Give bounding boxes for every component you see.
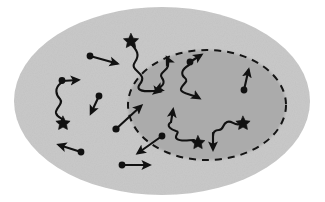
figure-root bbox=[0, 0, 325, 202]
particle-p11-dot bbox=[241, 87, 248, 94]
particle-p01-dot bbox=[87, 53, 94, 60]
particle-p06-dot bbox=[159, 133, 166, 140]
particle-p10-dot bbox=[187, 59, 194, 66]
particle-diagram bbox=[0, 0, 325, 202]
particle-p02-dot bbox=[59, 77, 66, 84]
particle-p05-dot bbox=[112, 125, 119, 132]
particle-p08-dot bbox=[119, 162, 126, 169]
particle-p03-dot bbox=[96, 93, 103, 100]
particle-p07-dot bbox=[78, 149, 85, 156]
